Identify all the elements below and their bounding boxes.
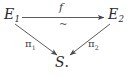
arrow-pi2-label-base: π	[88, 38, 95, 49]
arrow-pi1	[15, 24, 57, 55]
arrow-pi2-label: π2	[88, 39, 99, 49]
arrow-pi1-label: π1	[25, 39, 36, 49]
node-e2-base: E	[108, 6, 118, 22]
arrow-f-label-below: ~	[59, 19, 67, 29]
node-s: S.	[55, 55, 69, 69]
node-e2: E2	[108, 7, 124, 21]
node-e1-subscript: 1	[15, 14, 21, 24]
commutative-diagram: E1 E2 S. f ~ π1 π2	[0, 0, 129, 75]
arrow-pi2-label-subscript: 2	[95, 44, 99, 51]
node-s-base: S	[55, 54, 65, 70]
node-s-period: .	[65, 54, 69, 70]
arrow-pi1-label-subscript: 1	[32, 44, 36, 51]
arrow-f-label-above: f	[59, 2, 63, 13]
arrow-pi1-label-base: π	[25, 38, 32, 49]
node-e2-subscript: 2	[119, 14, 125, 24]
node-e1-base: E	[4, 6, 14, 22]
node-e1: E1	[4, 7, 20, 21]
